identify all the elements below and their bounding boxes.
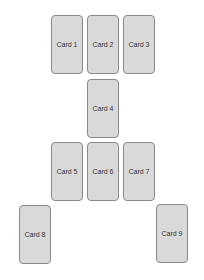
card-label: Card 6 xyxy=(92,168,113,175)
card-2[interactable]: Card 2 xyxy=(87,15,119,74)
card-label: Card 2 xyxy=(92,41,113,48)
card-4[interactable]: Card 4 xyxy=(87,79,119,138)
card-6[interactable]: Card 6 xyxy=(87,142,119,201)
card-label: Card 9 xyxy=(161,230,182,237)
card-8[interactable]: Card 8 xyxy=(19,205,51,264)
card-label: Card 7 xyxy=(128,168,149,175)
card-label: Card 1 xyxy=(56,41,77,48)
card-3[interactable]: Card 3 xyxy=(123,15,155,74)
card-7[interactable]: Card 7 xyxy=(123,142,155,201)
card-label: Card 5 xyxy=(56,168,77,175)
card-label: Card 3 xyxy=(128,41,149,48)
card-9[interactable]: Card 9 xyxy=(156,204,188,263)
card-1[interactable]: Card 1 xyxy=(51,15,83,74)
card-5[interactable]: Card 5 xyxy=(51,142,83,201)
card-label: Card 8 xyxy=(24,231,45,238)
card-label: Card 4 xyxy=(92,105,113,112)
